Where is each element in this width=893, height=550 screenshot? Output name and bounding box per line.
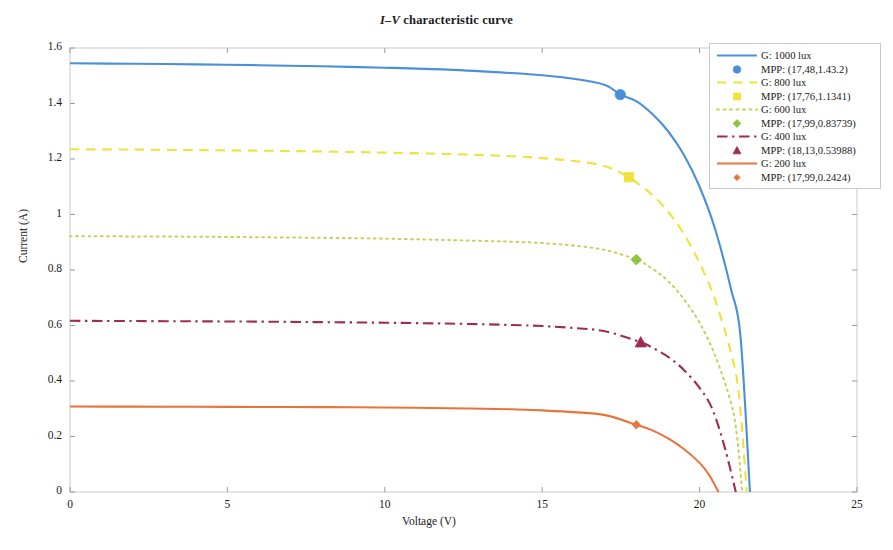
y-tick-label: 0: [22, 484, 62, 496]
x-tick-label: 25: [837, 498, 877, 510]
y-tick-label: 0.2: [22, 429, 62, 441]
legend-item-label: G: 1000 lux: [759, 50, 812, 61]
y-tick-label: 0.4: [22, 373, 62, 385]
legend-marker-swatch: [715, 63, 759, 76]
chart-figure: I–V characteristic curve Current (A) Vol…: [0, 0, 893, 550]
legend-item[interactable]: G: 1000 lux: [715, 49, 876, 63]
legend-line-swatch: [715, 157, 759, 170]
legend-item-label: G: 600 lux: [759, 104, 806, 115]
mpp-marker-square: [624, 173, 633, 182]
series-line-4: [70, 407, 718, 492]
y-tick-label: 0.8: [22, 262, 62, 274]
chart-legend: G: 1000 luxMPP: (17,48,1.43.2)G: 800 lux…: [709, 43, 881, 189]
legend-item[interactable]: MPP: (18,13,0.53988): [715, 144, 876, 158]
y-tick-label: 1: [22, 207, 62, 219]
legend-marker-swatch: [715, 171, 759, 184]
series-line-2: [70, 236, 742, 492]
x-tick-label: 15: [522, 498, 562, 510]
mpp-marker-diamond-small: [632, 421, 640, 429]
y-tick-label: 1.6: [22, 40, 62, 52]
legend-marker-swatch: [715, 90, 759, 103]
legend-item-label: G: 200 lux: [759, 158, 806, 169]
legend-item[interactable]: G: 800 lux: [715, 76, 876, 90]
legend-item[interactable]: G: 400 lux: [715, 130, 876, 144]
legend-item-label: MPP: (17,99,0.83739): [759, 118, 856, 129]
x-tick-label: 5: [207, 498, 247, 510]
legend-item[interactable]: MPP: (17,76,1.1341): [715, 90, 876, 104]
legend-item[interactable]: MPP: (17,48,1.43.2): [715, 63, 876, 77]
y-tick-label: 1.4: [22, 96, 62, 108]
legend-item-label: MPP: (17,76,1.1341): [759, 91, 850, 102]
mpp-marker-diamond: [631, 254, 642, 265]
legend-item[interactable]: G: 200 lux: [715, 157, 876, 171]
legend-marker-swatch: [715, 117, 759, 130]
legend-item-label: MPP: (18,13,0.53988): [759, 145, 856, 156]
legend-line-swatch: [715, 103, 759, 116]
y-tick-label: 0.6: [22, 318, 62, 330]
x-tick-label: 0: [50, 498, 90, 510]
legend-marker-swatch: [715, 144, 759, 157]
series-line-1: [70, 149, 747, 492]
legend-item[interactable]: G: 600 lux: [715, 103, 876, 117]
legend-line-swatch: [715, 76, 759, 89]
mpp-marker-circle: [615, 89, 625, 99]
legend-item-label: G: 400 lux: [759, 131, 806, 142]
legend-item-label: G: 800 lux: [759, 77, 806, 88]
x-tick-label: 20: [680, 498, 720, 510]
legend-item[interactable]: MPP: (17,99,0.83739): [715, 117, 876, 131]
x-tick-label: 10: [365, 498, 405, 510]
y-tick-label: 1.2: [22, 151, 62, 163]
legend-line-swatch: [715, 49, 759, 62]
legend-item-label: MPP: (17,48,1.43.2): [759, 64, 848, 75]
legend-item-label: MPP: (17,99,0.2424): [759, 172, 850, 183]
legend-line-swatch: [715, 130, 759, 143]
legend-item[interactable]: MPP: (17,99,0.2424): [715, 171, 876, 185]
